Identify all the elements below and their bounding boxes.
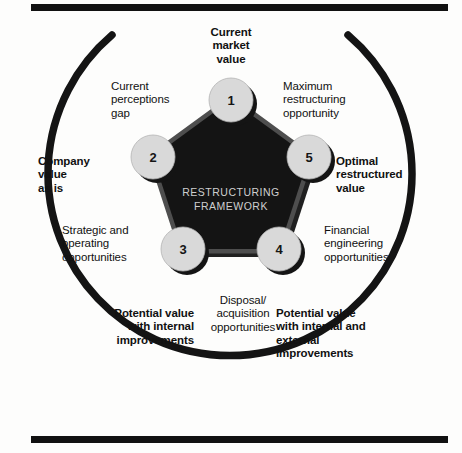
node-4-number: 4 [275,242,283,257]
center-caption-line2: FRAMEWORK [194,200,268,212]
node-2-number: 2 [149,150,156,165]
node-5-label: Optimal restructured value [336,155,446,195]
node-4[interactable]: 4 [257,227,305,275]
gap-label-current-perceptions-gap: Current perceptions gap [111,80,207,120]
node-2-label: Company value as is [38,155,130,195]
figure-canvas: RESTRUCTURING FRAMEWORK 1 2 3 4 5 [0,0,462,453]
node-3-label: Potential value with internal improvemen… [78,307,194,347]
node-1-number: 1 [227,93,234,108]
gap-label-strategic-and-operating-opportunities: Strategic and operating opportunities [62,224,170,264]
center-caption-line1: RESTRUCTURING [182,186,280,198]
gap-label-maximum-restructuring-opportunity: Maximum restructuring opportunity [283,80,391,120]
node-1-label: Current market value [176,26,286,66]
node-3-number: 3 [179,242,186,257]
gap-label-financial-engineering-opportunities: Financial engineering opportunities [324,224,430,264]
node-5-number: 5 [305,150,312,165]
node-4-label: Potential value with internal and extern… [276,307,400,361]
gap-label-disposal-acquisition-opportunities: Disposal/ acquisition opportunities [196,294,290,334]
